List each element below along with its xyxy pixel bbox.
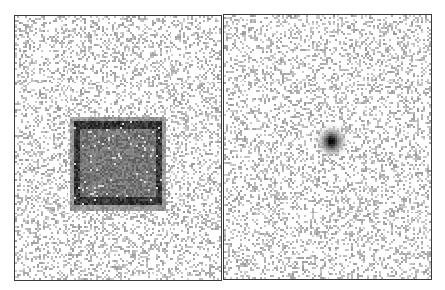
left-image-panel [14,15,222,281]
point-noise-image [224,15,431,279]
square-noise-image [15,16,221,280]
right-image-panel [223,14,432,280]
